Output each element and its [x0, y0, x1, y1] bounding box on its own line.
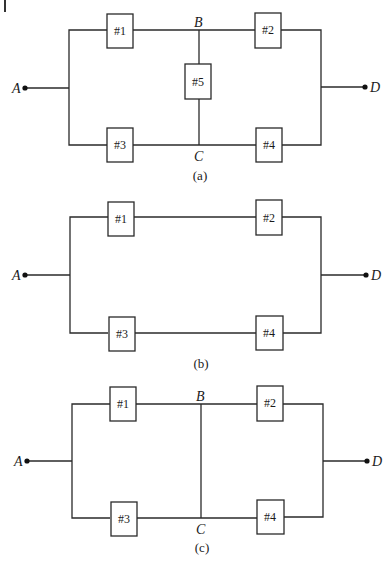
node-label-a-C: C [194, 149, 204, 164]
node-label-b-D: D [370, 268, 381, 283]
component-b-3: #3 [109, 317, 135, 351]
svg-text:#1: #1 [114, 24, 126, 38]
component-b-1: #1 [108, 202, 134, 236]
wire-c-right-rail [283, 404, 323, 517]
wire-c-left-rail [72, 404, 110, 518]
terminal-b-D [363, 272, 368, 277]
node-label-a-B: B [194, 15, 203, 30]
node-label-a-A: A [11, 81, 21, 96]
component-c-4: #4 [257, 500, 284, 534]
component-b-4: #4 [256, 316, 283, 350]
component-a-2: #2 [255, 13, 281, 48]
svg-text:#2: #2 [262, 23, 274, 37]
svg-text:#1: #1 [115, 212, 127, 226]
terminal-c-D [364, 458, 369, 463]
component-a-3: #3 [107, 128, 133, 162]
svg-text:#2: #2 [264, 396, 276, 410]
wire-b-right-rail [282, 217, 321, 333]
node-label-c-B: B [196, 389, 205, 404]
terminal-a-D [362, 84, 367, 89]
svg-text:#1: #1 [117, 397, 129, 411]
terminal-b-A [22, 272, 27, 277]
caption-b: (b) [193, 356, 208, 371]
node-label-a-D: D [369, 80, 380, 95]
svg-text:#3: #3 [118, 512, 130, 526]
panel-b: #1 #2 #3 #4 A D (b) [11, 200, 381, 371]
component-a-5: #5 [185, 64, 211, 99]
node-label-c-A: A [13, 454, 23, 469]
svg-text:#3: #3 [116, 327, 128, 341]
panel-a: #1 #2 #3 #4 #5 A B C D (a) [11, 13, 380, 183]
component-c-3: #3 [111, 502, 137, 536]
node-label-c-D: D [371, 454, 382, 469]
component-a-4: #4 [256, 128, 282, 162]
reliability-network-figure: #1 #2 #3 #4 #5 A B C D (a) [0, 0, 392, 565]
node-label-b-A: A [11, 268, 21, 283]
node-label-c-C: C [196, 522, 206, 537]
svg-text:#2: #2 [263, 211, 275, 225]
component-a-1: #1 [107, 14, 133, 48]
wire-a-left-rail [69, 30, 107, 145]
component-b-2: #2 [256, 200, 282, 235]
wire-b-left-rail [70, 217, 108, 333]
svg-text:#4: #4 [263, 138, 275, 152]
caption-c: (c) [195, 540, 209, 555]
terminal-c-A [24, 458, 29, 463]
svg-text:#4: #4 [264, 510, 276, 524]
terminal-a-A [22, 85, 27, 90]
component-c-1: #1 [110, 387, 136, 421]
svg-text:#4: #4 [263, 326, 275, 340]
caption-a: (a) [193, 168, 207, 183]
svg-text:#3: #3 [114, 138, 126, 152]
component-c-2: #2 [257, 386, 283, 421]
panel-c: #1 #2 #3 #4 A B C D (c) [13, 386, 382, 555]
svg-text:#5: #5 [192, 75, 204, 89]
wire-a-right-rail [281, 30, 321, 145]
